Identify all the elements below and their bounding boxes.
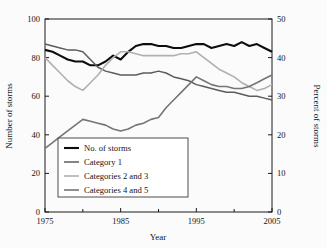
series-line: [45, 44, 272, 100]
y-axis-right-title: Percent of storms: [312, 85, 322, 148]
y-axis-right-tick-label: 40: [277, 53, 286, 63]
x-axis-tick-label: 2005: [264, 216, 281, 226]
y-axis-right-tick-label: 30: [277, 91, 286, 101]
chart-legend[interactable]: No. of stormsCategory 1Categories 2 and …: [58, 138, 188, 197]
y-axis-right-ticks: [268, 19, 272, 212]
legend-label: Categories 2 and 3: [84, 171, 148, 181]
x-axis-tick-label: 1985: [112, 216, 129, 226]
y-axis-left-tick-label: 100: [27, 14, 40, 24]
x-axis-tick-labels: 1975198519952005: [37, 216, 281, 226]
y-axis-left-tick-labels: 020406080100: [27, 14, 40, 217]
y-axis-right-tick-label: 50: [277, 14, 286, 24]
legend-label: Categories 4 and 5: [84, 185, 148, 195]
y-axis-right-tick-labels: 01020304050: [277, 14, 286, 217]
x-axis-title: Year: [150, 232, 167, 242]
y-axis-right-tick-label: 20: [277, 130, 286, 140]
series-line: [45, 42, 272, 65]
y-axis-left-tick-label: 80: [32, 53, 41, 63]
x-axis-tick-label: 1995: [188, 216, 205, 226]
y-axis-left-title: Number of storms: [4, 83, 14, 149]
chart-figure: 020406080100 01020304050 197519851995200…: [0, 0, 327, 248]
data-series-group: [45, 42, 272, 148]
y-axis-left-tick-label: 60: [32, 91, 41, 101]
y-axis-left-tick-label: 20: [32, 168, 41, 178]
y-axis-left-ticks: [45, 19, 49, 212]
legend-label: Category 1: [84, 157, 122, 167]
legend-label: No. of storms: [84, 143, 132, 153]
line-chart-canvas: 020406080100 01020304050 197519851995200…: [0, 0, 327, 248]
series-line: [45, 75, 272, 148]
x-axis-ticks: [45, 208, 272, 212]
x-axis-tick-label: 1975: [37, 216, 54, 226]
y-axis-right-tick-label: 10: [277, 168, 286, 178]
y-axis-left-tick-label: 40: [32, 130, 41, 140]
